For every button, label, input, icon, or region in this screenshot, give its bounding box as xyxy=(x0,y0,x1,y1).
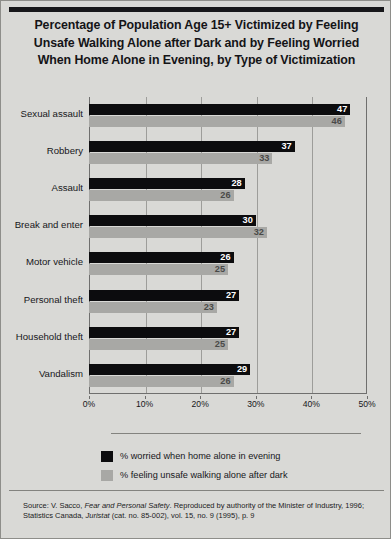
category-label: Robbery xyxy=(47,145,83,156)
category-label: Vandalism xyxy=(39,368,83,379)
legend-swatch xyxy=(101,470,113,481)
bar-row: Household theft2725 xyxy=(89,322,367,359)
bar-value-label: 46 xyxy=(332,116,342,127)
bar-value-label: 29 xyxy=(237,364,247,375)
bar-row: Break and enter3032 xyxy=(89,210,367,247)
chart-legend: % worried when home alone in evening% fe… xyxy=(101,448,288,486)
chart-title-line-2: Unsafe Walking Alone after Dark and by F… xyxy=(11,35,382,53)
legend-swatch xyxy=(101,451,113,462)
bar-row: Personal theft2723 xyxy=(89,285,367,322)
bar-unsafe: 33 xyxy=(89,153,272,164)
category-label: Break and enter xyxy=(15,219,83,230)
bar-row: Sexual assault4746 xyxy=(89,99,367,136)
x-tick-label: 20% xyxy=(192,399,209,409)
bar-value-label: 25 xyxy=(215,264,225,275)
category-label: Household theft xyxy=(16,331,83,342)
bar-value-label: 47 xyxy=(337,104,347,115)
bar-value-label: 26 xyxy=(220,252,230,263)
bar-unsafe: 26 xyxy=(89,190,234,201)
source-text-part-1: Source: V. Sacco, xyxy=(23,501,84,510)
legend-label: % worried when home alone in evening xyxy=(120,451,280,461)
bar-value-label: 28 xyxy=(231,178,241,189)
bar-worried: 29 xyxy=(89,364,250,375)
bar-value-label: 33 xyxy=(259,153,269,164)
bar-row: Vandalism2926 xyxy=(89,359,367,396)
source-text-part-3: (cat. no. 85-002), vol. 15, no. 9 (1995)… xyxy=(110,511,255,520)
bar-worried: 28 xyxy=(89,178,245,189)
bar-value-label: 23 xyxy=(204,302,214,313)
top-rule xyxy=(9,7,384,12)
bar-value-label: 32 xyxy=(254,227,264,238)
bar-value-label: 26 xyxy=(220,190,230,201)
source-journal-italic: Juristat xyxy=(86,511,110,520)
category-label: Personal theft xyxy=(24,294,83,305)
source-divider xyxy=(9,490,384,491)
category-label: Motor vehicle xyxy=(26,256,83,267)
bar-value-label: 27 xyxy=(226,327,236,338)
bar-row: Robbery3733 xyxy=(89,136,367,173)
bar-row: Motor vehicle2625 xyxy=(89,247,367,284)
chart-title-line-1: Percentage of Population Age 15+ Victimi… xyxy=(11,17,382,35)
chart-title: Percentage of Population Age 15+ Victimi… xyxy=(11,17,382,70)
category-label: Sexual assault xyxy=(21,108,83,119)
bar-worried: 37 xyxy=(89,141,295,152)
bar-value-label: 26 xyxy=(220,376,230,387)
plot-wrapper: Sexual assault4746Robbery3733Assault2826… xyxy=(1,97,391,397)
category-label: Assault xyxy=(52,182,83,193)
legend-item: % worried when home alone in evening xyxy=(101,448,288,464)
bar-worried: 30 xyxy=(89,215,256,226)
x-tick-label: 30% xyxy=(247,399,264,409)
bar-rows: Sexual assault4746Robbery3733Assault2826… xyxy=(89,97,367,397)
bar-row: Assault2826 xyxy=(89,173,367,210)
legend-label: % feeling unsafe walking alone after dar… xyxy=(120,470,288,480)
bar-unsafe: 32 xyxy=(89,227,267,238)
bar-unsafe: 25 xyxy=(89,264,228,275)
x-axis-ticks: 0%10%20%30%40%50% xyxy=(89,396,367,412)
bar-value-label: 37 xyxy=(281,141,291,152)
bar-unsafe: 23 xyxy=(89,302,217,313)
chart-title-line-3: When Home Alone in Evening, by Type of V… xyxy=(11,52,382,70)
legend-item: % feeling unsafe walking alone after dar… xyxy=(101,467,288,483)
x-tick-label: 0% xyxy=(83,399,95,409)
bar-worried: 27 xyxy=(89,327,239,338)
bar-unsafe: 46 xyxy=(89,116,345,127)
bar-value-label: 25 xyxy=(215,339,225,350)
x-tick-label: 50% xyxy=(358,399,375,409)
bar-unsafe: 25 xyxy=(89,339,228,350)
bar-unsafe: 26 xyxy=(89,376,234,387)
x-tick-label: 10% xyxy=(136,399,153,409)
bar-worried: 26 xyxy=(89,252,234,263)
bar-worried: 27 xyxy=(89,290,239,301)
source-title-italic: Fear and Personal Safety xyxy=(84,501,169,510)
figure-panel: Percentage of Population Age 15+ Victimi… xyxy=(0,0,391,539)
x-tick-label: 40% xyxy=(303,399,320,409)
bar-value-label: 27 xyxy=(226,290,236,301)
bar-worried: 47 xyxy=(89,104,350,115)
source-note: Source: V. Sacco, Fear and Personal Safe… xyxy=(23,501,371,520)
bar-value-label: 30 xyxy=(243,215,253,226)
legend-divider xyxy=(111,433,361,434)
